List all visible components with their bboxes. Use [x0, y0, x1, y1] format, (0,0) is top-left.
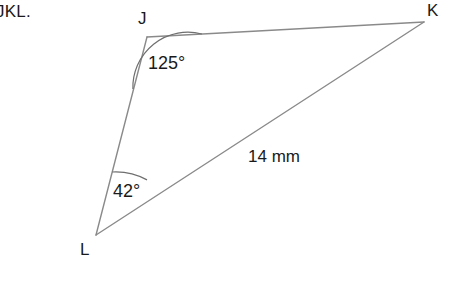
- triangle-drawing: [0, 0, 452, 281]
- segment-jl: [96, 37, 147, 235]
- angle-label-l: 42°: [113, 182, 140, 200]
- side-length-label-lk: 14 mm: [248, 148, 300, 165]
- vertex-label-l: L: [80, 241, 89, 258]
- segment-jk: [147, 22, 424, 37]
- segment-lk: [96, 22, 424, 235]
- geometry-figure: JKL. J K L 125° 42° 14 mm: [0, 0, 452, 281]
- angle-arc-l: [112, 172, 147, 180]
- angle-label-j: 125°: [148, 54, 185, 72]
- vertex-label-k: K: [427, 2, 438, 19]
- problem-prompt-text: JKL.: [0, 3, 31, 20]
- vertex-label-j: J: [138, 10, 147, 27]
